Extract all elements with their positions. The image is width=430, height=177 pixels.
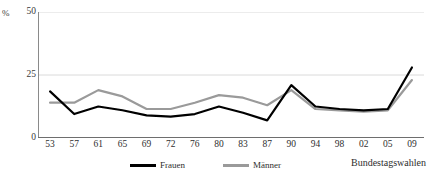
x-tick-72: 72 [166, 140, 176, 150]
gridlines [38, 12, 424, 75]
legend-label-männer: Männer [253, 161, 281, 170]
y-axis-tick-labels: 02550 [0, 0, 36, 177]
x-tick-87: 87 [262, 140, 272, 150]
chart-figure: % 02550 53576165697276808387909498020509… [0, 0, 430, 177]
legend-swatch-frauen [130, 164, 156, 167]
x-tick-98: 98 [335, 140, 345, 150]
y-tick-25: 25 [10, 70, 36, 80]
legend-swatch-männer [223, 164, 249, 167]
x-tick-05: 05 [383, 140, 393, 150]
x-tick-57: 57 [69, 140, 79, 150]
plot-area [38, 12, 424, 138]
x-tick-94: 94 [311, 140, 321, 150]
x-axis-title: Bundestagswahlen [351, 157, 426, 168]
legend-item-frauen: Frauen [130, 161, 185, 170]
chart-legend: FrauenMänner [130, 158, 281, 172]
legend-label-frauen: Frauen [160, 161, 185, 170]
plot-svg [38, 12, 424, 138]
x-tick-09: 09 [407, 140, 417, 150]
x-tick-65: 65 [118, 140, 128, 150]
x-tick-83: 83 [238, 140, 248, 150]
x-tick-76: 76 [190, 140, 200, 150]
x-tick-02: 02 [359, 140, 369, 150]
legend-item-männer: Männer [223, 161, 281, 170]
x-tick-90: 90 [287, 140, 297, 150]
x-tick-69: 69 [142, 140, 152, 150]
x-axis-tick-labels: 53576165697276808387909498020509 [38, 140, 424, 154]
y-tick-0: 0 [10, 133, 36, 143]
x-tick-53: 53 [45, 140, 55, 150]
x-tick-80: 80 [214, 140, 224, 150]
x-tick-61: 61 [94, 140, 104, 150]
y-tick-50: 50 [10, 7, 36, 17]
